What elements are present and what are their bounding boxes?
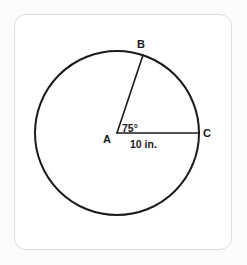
figure-root: A B C 75° 10 in. [0, 0, 247, 265]
circle-diagram: A B C 75° 10 in. [0, 0, 247, 265]
vertex-label-a: A [103, 133, 111, 145]
radius-length-label: 10 in. [130, 138, 157, 150]
central-angle-label: 75° [122, 122, 138, 134]
vertex-label-c: C [203, 127, 211, 139]
vertex-label-b: B [137, 38, 145, 50]
